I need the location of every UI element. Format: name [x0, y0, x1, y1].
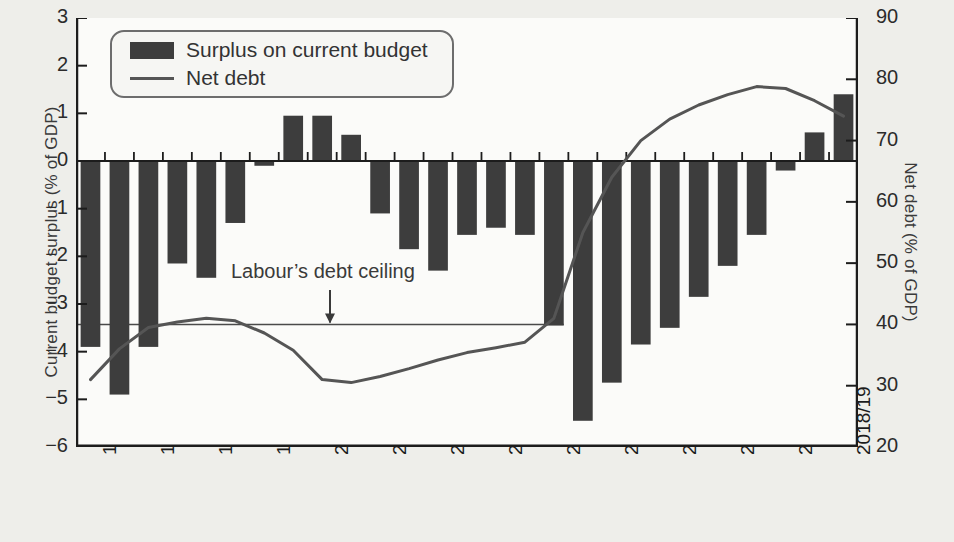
- bar: [399, 161, 419, 249]
- bar: [457, 161, 477, 235]
- left-axis-tick-label: 0: [22, 148, 68, 171]
- bar: [139, 161, 159, 347]
- bar: [718, 161, 738, 266]
- right-axis-tick-label: 80: [876, 66, 922, 89]
- right-axis-tick-label: 90: [876, 5, 922, 28]
- bar: [225, 161, 245, 223]
- legend-item-surplus: Surplus on current budget: [130, 38, 428, 62]
- left-axis-tick-label: −4: [22, 339, 68, 362]
- bar: [776, 161, 796, 171]
- bar: [834, 94, 854, 161]
- right-axis-tick-label: 50: [876, 250, 922, 273]
- bar: [196, 161, 216, 278]
- left-axis-tick-label: −2: [22, 243, 68, 266]
- bar: [370, 161, 390, 213]
- right-axis-tick-label: 40: [876, 311, 922, 334]
- legend-item-net-debt: Net debt: [130, 66, 265, 90]
- right-axis-tick-label: 70: [876, 128, 922, 151]
- annotation-arrow-head: [325, 313, 335, 323]
- left-axis-tick-label: −3: [22, 291, 68, 314]
- bar: [573, 161, 593, 421]
- right-axis-tick-label: 30: [876, 373, 922, 396]
- left-axis-tick-label: −5: [22, 386, 68, 409]
- bar: [168, 161, 188, 263]
- bar: [689, 161, 709, 297]
- bar: [428, 161, 448, 271]
- bar: [81, 161, 101, 347]
- right-axis-tick-label: 20: [876, 434, 922, 457]
- bar: [747, 161, 767, 235]
- bar: [660, 161, 680, 328]
- bar: [110, 161, 130, 395]
- left-axis-tick-label: 1: [22, 100, 68, 123]
- bar: [515, 161, 535, 235]
- right-axis-tick-label: 60: [876, 189, 922, 212]
- bar: [283, 116, 303, 161]
- bar: [486, 161, 506, 228]
- bar: [805, 132, 825, 161]
- chart-legend: Surplus on current budget Net debt: [110, 30, 454, 98]
- annotation-labours-debt-ceiling: Labour’s debt ceiling: [231, 260, 415, 283]
- legend-bar-swatch-icon: [130, 42, 174, 59]
- legend-label-net-debt: Net debt: [186, 66, 265, 90]
- legend-line-swatch-icon: [130, 77, 174, 80]
- right-axis-title: Net debt (% of GDP): [900, 72, 920, 412]
- chart-root: Current budget surplus (% of GDP) Net de…: [0, 0, 954, 542]
- left-axis-tick-label: 2: [22, 53, 68, 76]
- left-axis-tick-label: −6: [22, 434, 68, 457]
- bar: [341, 135, 361, 161]
- bar: [312, 116, 332, 161]
- legend-label-surplus: Surplus on current budget: [186, 38, 428, 62]
- bar: [631, 161, 651, 345]
- left-axis-tick-label: 3: [22, 5, 68, 28]
- left-axis-tick-label: −1: [22, 196, 68, 219]
- bar: [602, 161, 622, 383]
